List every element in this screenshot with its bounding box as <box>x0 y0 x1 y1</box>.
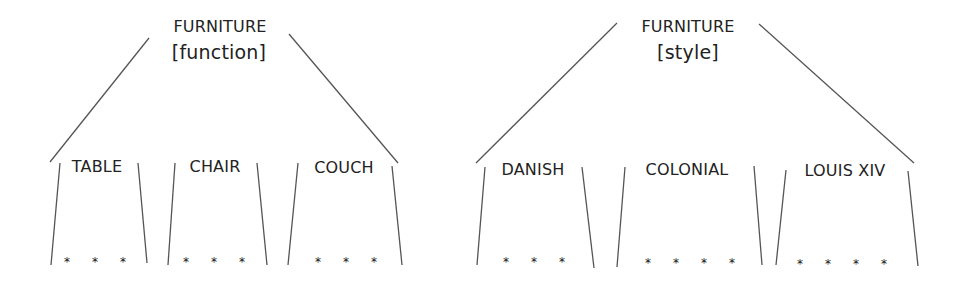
member-star: * <box>304 256 332 268</box>
style-root-label: FURNITURE <box>641 19 734 35</box>
member-star: * <box>492 256 520 268</box>
table-box-left <box>51 163 60 265</box>
colonial-members: **** <box>634 257 746 269</box>
category-table-label: TABLE <box>72 159 122 175</box>
danish-members: *** <box>492 256 576 268</box>
table-box-right <box>138 163 147 263</box>
chair-members: *** <box>172 256 256 268</box>
style-root-qualifier: [style] <box>657 43 719 62</box>
member-star: * <box>548 256 576 268</box>
style-root-right-branch <box>759 24 914 163</box>
member-star: * <box>662 257 690 269</box>
couch-box-left <box>288 163 298 265</box>
function-root-right-branch <box>289 34 398 163</box>
member-star: * <box>870 258 898 270</box>
category-danish-label: DANISH <box>501 162 564 178</box>
louis-xiv-box-left <box>776 170 786 265</box>
category-louis-xiv-label: LOUIS XIV <box>804 163 885 179</box>
category-colonial-label: COLONIAL <box>646 162 729 178</box>
member-star: * <box>786 258 814 270</box>
couch-box-right <box>392 166 402 265</box>
colonial-box-right <box>754 166 762 265</box>
member-star: * <box>718 257 746 269</box>
colonial-box-left <box>617 167 625 267</box>
member-star: * <box>53 256 81 268</box>
couch-members: *** <box>304 256 388 268</box>
style-root-left-branch <box>476 23 617 163</box>
category-couch-label: COUCH <box>314 160 374 176</box>
member-star: * <box>200 256 228 268</box>
category-chair-label: CHAIR <box>190 159 241 175</box>
function-root-qualifier: [function] <box>172 43 266 62</box>
function-root-label: FURNITURE <box>173 19 266 35</box>
danish-box-left <box>477 167 485 265</box>
louis-xiv-members: **** <box>786 258 898 270</box>
member-star: * <box>172 256 200 268</box>
member-star: * <box>109 256 137 268</box>
chair-box-left <box>168 163 175 265</box>
member-star: * <box>332 256 360 268</box>
function-root-left-branch <box>50 38 149 162</box>
table-members: *** <box>53 256 137 268</box>
member-star: * <box>814 258 842 270</box>
chair-box-right <box>257 163 267 265</box>
danish-box-right <box>582 167 594 268</box>
member-star: * <box>360 256 388 268</box>
member-star: * <box>520 256 548 268</box>
member-star: * <box>228 256 256 268</box>
diagram-lines <box>0 0 961 286</box>
member-star: * <box>634 257 662 269</box>
member-star: * <box>690 257 718 269</box>
louis-xiv-box-right <box>908 171 918 266</box>
member-star: * <box>81 256 109 268</box>
member-star: * <box>842 258 870 270</box>
